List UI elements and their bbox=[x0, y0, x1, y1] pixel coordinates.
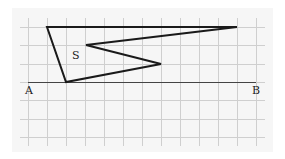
geometry-diagram: A B S bbox=[0, 0, 285, 159]
label-shape-s: S bbox=[72, 49, 80, 62]
label-point-b: B bbox=[252, 84, 260, 97]
label-point-a: A bbox=[24, 84, 34, 97]
